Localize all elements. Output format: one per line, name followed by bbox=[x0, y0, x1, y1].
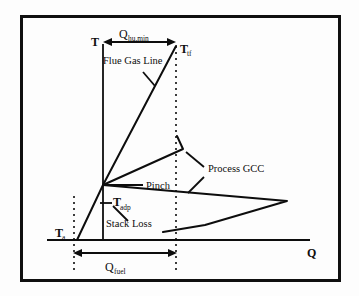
q-hu-min-base: Q bbox=[119, 27, 128, 41]
leader-process-gcc-upper bbox=[186, 152, 204, 167]
diagram-canvas: T Q Q hu,min Flue Gas Line T tf Process … bbox=[0, 0, 359, 296]
leader-process-gcc-lower bbox=[188, 177, 204, 193]
q-fuel-dimension bbox=[73, 249, 177, 257]
q-hu-min-arrowhead-right bbox=[167, 38, 176, 46]
pinch-label: Pinch bbox=[146, 180, 171, 191]
q-fuel-subscript: fuel bbox=[114, 267, 126, 276]
stack-loss-label: Stack Loss bbox=[106, 218, 152, 229]
q-fuel-base: Q bbox=[105, 260, 114, 274]
q-hu-min-subscript: hu,min bbox=[128, 34, 149, 43]
y-axis-label: T bbox=[91, 35, 99, 49]
axes-group bbox=[47, 44, 310, 240]
flue-gas-line-label: Flue Gas Line bbox=[103, 55, 163, 66]
process-gcc-label: Process GCC bbox=[208, 163, 264, 174]
x-axis-label: Q bbox=[307, 246, 316, 260]
t-tf-subscript: tf bbox=[187, 49, 192, 58]
figure-container: T Q Q hu,min Flue Gas Line T tf Process … bbox=[0, 0, 359, 296]
q-fuel-label: Q fuel bbox=[105, 260, 126, 276]
t-a-label: T a bbox=[55, 226, 66, 242]
q-hu-min-arrowhead-left bbox=[103, 38, 112, 46]
leader-flue-gas-line bbox=[143, 72, 155, 86]
t-tf-label: T tf bbox=[180, 42, 192, 58]
q-hu-min-label: Q hu,min bbox=[119, 27, 149, 43]
t-adp-subscript: adp bbox=[120, 203, 131, 212]
